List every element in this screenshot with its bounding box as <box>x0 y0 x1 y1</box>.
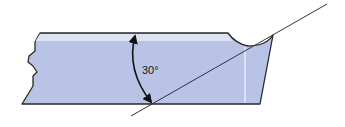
angle-label: 30° <box>142 64 159 76</box>
diagram-canvas: 30° <box>0 0 345 127</box>
